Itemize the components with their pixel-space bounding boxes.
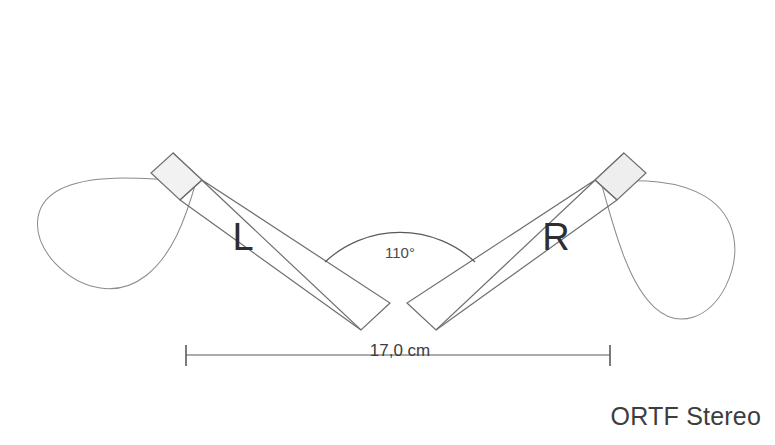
left-mic-letter: L xyxy=(232,216,253,258)
left-mic-capsule xyxy=(151,153,202,200)
left-cardioid-pattern xyxy=(21,123,223,315)
right-mic-letter: R xyxy=(542,216,569,258)
ortf-stereo-diagram: 110° L R 17,0 cm ORTF Stereo xyxy=(0,0,775,445)
diagram-caption: ORTF Stereo xyxy=(611,402,761,431)
left-microphone xyxy=(151,153,390,330)
right-cardioid-pattern xyxy=(559,143,761,335)
right-mic-edge xyxy=(436,200,617,330)
angle-label: 110° xyxy=(385,244,415,261)
left-mic-edge xyxy=(180,200,361,330)
dimension-label: 17,0 cm xyxy=(370,341,430,360)
right-mic-body xyxy=(407,153,624,330)
dimension-line-group: 17,0 cm xyxy=(186,341,610,366)
right-mic-capsule xyxy=(595,153,646,200)
diagram-canvas: 110° L R 17,0 cm xyxy=(0,0,775,445)
